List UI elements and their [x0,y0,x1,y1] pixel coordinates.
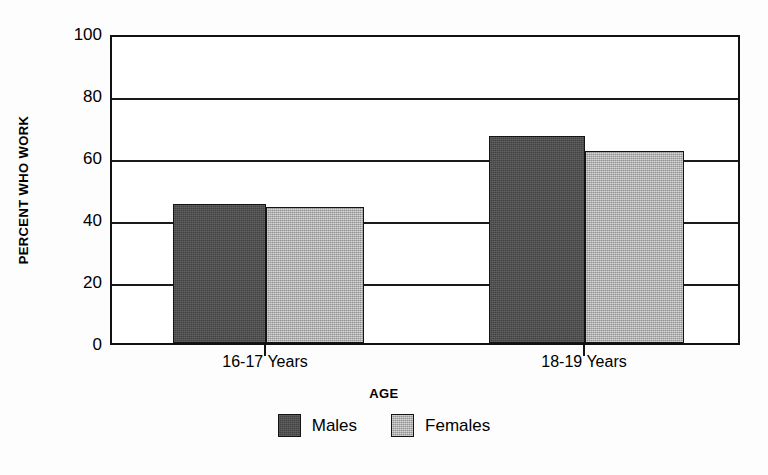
x-axis-title: AGE [0,386,768,401]
y-tick-label-60: 60 [48,150,102,167]
x-axis-label-18-19: 18-19 Years [541,352,626,372]
plot-area [110,35,740,345]
bar-16-17-females [266,207,364,343]
legend-item-males: Males [278,414,357,437]
bar-chart: PERCENT WHO WORK 100 80 60 40 20 0 16-17… [0,0,768,475]
males-swatch-icon [278,414,301,437]
gridline-80 [112,98,738,100]
y-axis-title: PERCENT WHO WORK [10,35,36,345]
legend-label-females: Females [425,417,490,434]
y-tick-label-80: 80 [48,88,102,105]
plot-inner [112,37,738,343]
bar-18-19-females [585,151,684,343]
chart-legend: Males Females [0,414,768,437]
y-tick-label-100: 100 [48,26,102,43]
x-axis-label-16-17: 16-17 Years [222,352,307,372]
y-tick-label-0: 0 [48,336,102,353]
bar-16-17-males [173,204,266,343]
y-axis-tick-labels: 100 80 60 40 20 0 [46,0,102,475]
y-tick-label-20: 20 [48,274,102,291]
females-swatch-icon [391,414,414,437]
legend-item-females: Females [391,414,490,437]
y-tick-label-40: 40 [48,212,102,229]
legend-label-males: Males [312,417,357,434]
bar-18-19-males [489,136,585,343]
